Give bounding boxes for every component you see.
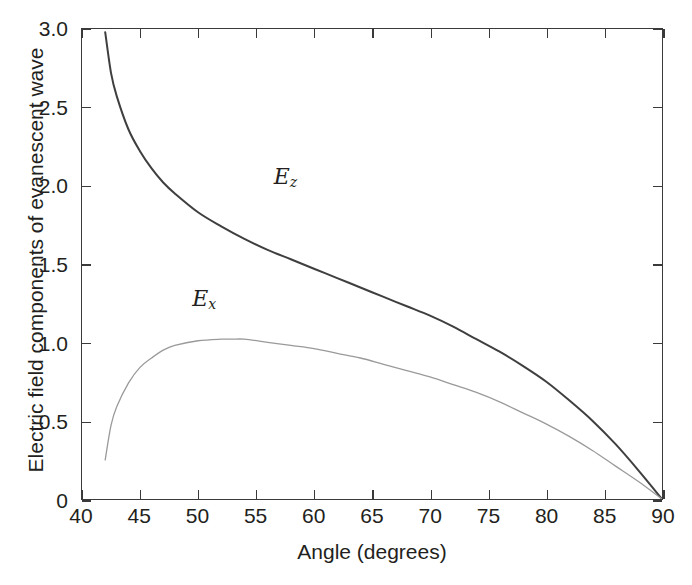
x-tick-65 bbox=[372, 29, 373, 38]
x-axis-title: Angle (degrees) bbox=[81, 540, 663, 564]
x-tick-label-60: 60 bbox=[302, 505, 325, 526]
x-tick-label-50: 50 bbox=[186, 505, 209, 526]
y-tick-3.0 bbox=[653, 28, 662, 29]
y-tick-2.0 bbox=[653, 186, 662, 187]
y-tick-label-1.0: 1.0 bbox=[0, 332, 68, 353]
plot-area: Ez Ex bbox=[81, 28, 663, 500]
x-tick-75 bbox=[489, 490, 490, 499]
x-tick-45 bbox=[140, 29, 141, 38]
y-tick-2.0 bbox=[82, 186, 91, 187]
x-tick-90 bbox=[663, 490, 664, 499]
y-tick-0.5 bbox=[653, 422, 662, 423]
curve-label-ex-subscript: x bbox=[208, 296, 216, 312]
curve-label-ez: Ez bbox=[274, 164, 297, 190]
x-tick-50 bbox=[198, 29, 199, 38]
x-tick-55 bbox=[256, 29, 257, 38]
x-tick-label-40: 40 bbox=[69, 505, 92, 526]
y-tick-label-0: 0 bbox=[0, 490, 68, 511]
x-tick-60 bbox=[314, 29, 315, 38]
x-tick-label-85: 85 bbox=[593, 505, 616, 526]
y-tick-label-3.0: 3.0 bbox=[0, 18, 68, 39]
y-tick-label-0.5: 0.5 bbox=[0, 411, 68, 432]
curve-label-ex: Ex bbox=[192, 286, 216, 312]
curve-canvas bbox=[82, 29, 662, 499]
x-tick-65 bbox=[372, 490, 373, 499]
x-tick-45 bbox=[140, 490, 141, 499]
x-tick-label-90: 90 bbox=[651, 505, 674, 526]
y-tick-1.5 bbox=[82, 264, 91, 265]
y-tick-0 bbox=[82, 500, 91, 501]
y-tick-label-1.5: 1.5 bbox=[0, 254, 68, 275]
x-tick-50 bbox=[198, 490, 199, 499]
x-tick-90 bbox=[663, 29, 664, 38]
y-tick-0.5 bbox=[82, 422, 91, 423]
x-tick-label-55: 55 bbox=[244, 505, 267, 526]
x-tick-85 bbox=[605, 29, 606, 38]
x-tick-label-45: 45 bbox=[128, 505, 151, 526]
y-tick-label-2.5: 2.5 bbox=[0, 96, 68, 117]
x-tick-80 bbox=[547, 490, 548, 499]
y-tick-3.0 bbox=[82, 28, 91, 29]
x-tick-80 bbox=[547, 29, 548, 38]
x-tick-label-65: 65 bbox=[360, 505, 383, 526]
curve-label-ez-subscript: z bbox=[290, 175, 297, 191]
x-tick-label-75: 75 bbox=[477, 505, 500, 526]
x-tick-label-80: 80 bbox=[535, 505, 558, 526]
curve-ex bbox=[105, 339, 662, 499]
x-tick-70 bbox=[431, 490, 432, 499]
x-tick-75 bbox=[489, 29, 490, 38]
y-tick-1.0 bbox=[82, 343, 91, 344]
curve-label-ex-symbol: E bbox=[192, 286, 208, 311]
x-tick-60 bbox=[314, 490, 315, 499]
x-tick-70 bbox=[431, 29, 432, 38]
x-tick-label-70: 70 bbox=[419, 505, 442, 526]
x-tick-55 bbox=[256, 490, 257, 499]
y-tick-label-2.0: 2.0 bbox=[0, 175, 68, 196]
y-tick-2.5 bbox=[653, 107, 662, 108]
y-tick-1.5 bbox=[653, 264, 662, 265]
y-tick-0 bbox=[653, 500, 662, 501]
y-tick-1.0 bbox=[653, 343, 662, 344]
x-tick-85 bbox=[605, 490, 606, 499]
curve-ez bbox=[105, 32, 662, 499]
x-tick-40 bbox=[81, 490, 82, 499]
x-tick-40 bbox=[81, 29, 82, 38]
evanescent-wave-field-chart: Electric field components of evanescent … bbox=[0, 0, 692, 585]
y-tick-2.5 bbox=[82, 107, 91, 108]
curve-label-ez-symbol: E bbox=[274, 164, 290, 189]
